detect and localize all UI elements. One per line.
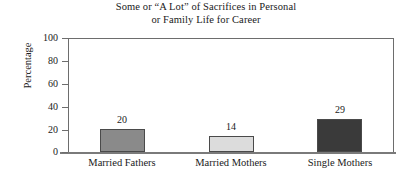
bar-value-single-mothers: 29 bbox=[320, 105, 360, 115]
chart-title-line-2: or Family Life for Career bbox=[0, 14, 412, 27]
bar-single-mothers bbox=[317, 119, 362, 152]
bar-value-married-mothers: 14 bbox=[211, 122, 251, 132]
y-tick-80 bbox=[62, 61, 68, 62]
x-tick-label-married-mothers: Married Mothers bbox=[171, 157, 291, 169]
y-tick-100 bbox=[62, 38, 68, 39]
y-tick-40 bbox=[62, 107, 68, 108]
y-tick-60 bbox=[62, 84, 68, 85]
bar-married-mothers bbox=[209, 136, 254, 152]
y-tick-label-0: 0 bbox=[22, 147, 58, 157]
y-tick-20 bbox=[62, 130, 68, 131]
chart-title-line-1: Some or “A Lot” of Sacrifices in Persona… bbox=[0, 1, 412, 14]
x-tick-label-married-fathers: Married Fathers bbox=[62, 157, 182, 169]
y-tick-label-100: 100 bbox=[22, 33, 58, 43]
bar-married-fathers bbox=[100, 129, 145, 152]
y-tick-label-40: 40 bbox=[22, 102, 58, 112]
x-axis-baseline bbox=[60, 152, 396, 154]
y-tick-label-80: 80 bbox=[22, 56, 58, 66]
y-tick-0 bbox=[62, 152, 68, 153]
x-tick-label-single-mothers: Single Mothers bbox=[280, 157, 400, 169]
bar-value-married-fathers: 20 bbox=[102, 115, 142, 125]
y-tick-label-60: 60 bbox=[22, 79, 58, 89]
y-tick-label-20: 20 bbox=[22, 125, 58, 135]
chart-title: Some or “A Lot” of Sacrifices in Persona… bbox=[0, 1, 412, 26]
